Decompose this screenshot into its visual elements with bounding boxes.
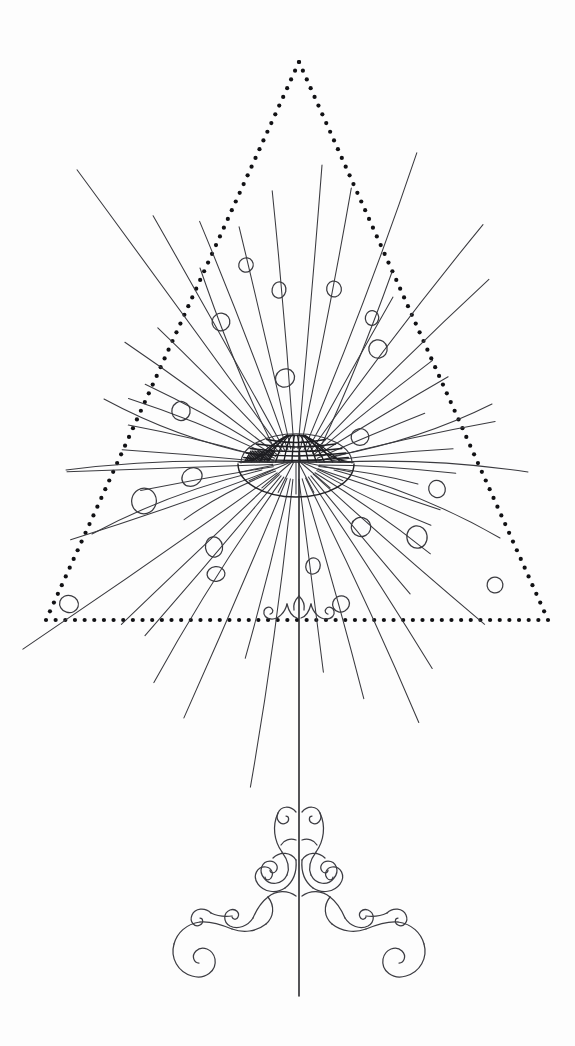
triangle-dot	[464, 435, 468, 439]
triangle-dot	[305, 77, 309, 81]
triangle-dot	[359, 199, 363, 203]
triangle-dot	[476, 461, 480, 465]
triangle-dot	[230, 208, 234, 212]
triangle-dot	[527, 618, 531, 622]
triangle-dot	[162, 356, 166, 360]
triangle-dot	[394, 278, 398, 282]
triangle-dot	[68, 566, 72, 570]
dandelion-lamp-drawing	[0, 0, 575, 1046]
triangle-dot	[92, 618, 96, 622]
triangle-dot	[54, 618, 58, 622]
triangle-dot	[499, 513, 503, 517]
triangle-dot	[139, 409, 143, 413]
triangle-dot	[261, 138, 265, 142]
triangle-dot	[44, 618, 48, 622]
triangle-dot	[253, 156, 257, 160]
triangle-dot	[169, 618, 173, 622]
triangle-dot	[238, 191, 242, 195]
background	[0, 0, 575, 1046]
triangle-dot	[281, 95, 285, 99]
triangle-dot	[222, 226, 226, 230]
triangle-dot	[301, 69, 305, 73]
triangle-dot	[179, 618, 183, 622]
triangle-dot	[382, 618, 386, 622]
triangle-dot	[127, 435, 131, 439]
triangle-dot	[411, 618, 415, 622]
triangle-dot	[265, 130, 269, 134]
triangle-dot	[433, 365, 437, 369]
triangle-dot	[83, 618, 87, 622]
triangle-dot	[390, 269, 394, 273]
triangle-dot	[468, 444, 472, 448]
triangle-dot	[511, 539, 515, 543]
triangle-dot	[150, 618, 154, 622]
triangle-dot	[449, 618, 453, 622]
triangle-dot	[289, 77, 293, 81]
triangle-dot	[99, 496, 103, 500]
triangle-dot	[140, 618, 144, 622]
triangle-dot	[206, 260, 210, 264]
triangle-dot	[453, 409, 457, 413]
triangle-dot	[186, 304, 190, 308]
triangle-dot	[102, 618, 106, 622]
triangle-dot	[247, 618, 251, 622]
triangle-dot	[379, 243, 383, 247]
triangle-dot	[334, 618, 338, 622]
triangle-dot	[542, 609, 546, 613]
triangle-dot	[305, 618, 309, 622]
triangle-dot	[107, 478, 111, 482]
triangle-dot	[218, 618, 222, 622]
triangle-dot	[398, 287, 402, 291]
triangle-dot	[56, 592, 60, 596]
triangle-dot	[190, 295, 194, 299]
triangle-dot	[52, 600, 56, 604]
triangle-dot	[495, 505, 499, 509]
triangle-dot	[316, 103, 320, 107]
triangle-dot	[312, 95, 316, 99]
triangle-dot	[491, 496, 495, 500]
triangle-dot	[351, 182, 355, 186]
triangle-dot	[344, 165, 348, 169]
triangle-dot	[498, 618, 502, 622]
triangle-dot	[103, 487, 107, 491]
triangle-dot	[64, 574, 68, 578]
triangle-dot	[226, 217, 230, 221]
triangle-dot	[418, 330, 422, 334]
triangle-dot	[328, 130, 332, 134]
triangle-dot	[320, 112, 324, 116]
triangle-dot	[246, 173, 250, 177]
triangle-dot	[382, 252, 386, 256]
triangle-dot	[488, 618, 492, 622]
triangle-dot	[293, 69, 297, 73]
triangle-dot	[371, 226, 375, 230]
triangle-dot	[155, 374, 159, 378]
triangle-dot	[449, 400, 453, 404]
triangle-dot	[507, 531, 511, 535]
triangle-dot	[60, 583, 64, 587]
triangle-dot	[507, 618, 511, 622]
triangle-dot	[406, 304, 410, 308]
triangle-dot	[285, 618, 289, 622]
illustration-canvas	[0, 0, 575, 1046]
triangle-dot	[472, 452, 476, 456]
triangle-dot	[214, 243, 218, 247]
triangle-dot	[119, 452, 123, 456]
triangle-dot	[362, 618, 366, 622]
triangle-dot	[459, 618, 463, 622]
triangle-dot	[73, 618, 77, 622]
triangle-dot	[536, 618, 540, 622]
triangle-dot	[402, 295, 406, 299]
triangle-dot	[91, 513, 95, 517]
triangle-dot	[355, 191, 359, 195]
triangle-dot	[76, 548, 80, 552]
triangle-dot	[414, 321, 418, 325]
triangle-dot	[430, 618, 434, 622]
triangle-dot	[425, 348, 429, 352]
triangle-dot	[441, 382, 445, 386]
triangle-dot	[437, 374, 441, 378]
triangle-dot	[530, 583, 534, 587]
triangle-dot	[111, 618, 115, 622]
triangle-dot	[517, 618, 521, 622]
triangle-dot	[484, 478, 488, 482]
triangle-dot	[151, 382, 155, 386]
